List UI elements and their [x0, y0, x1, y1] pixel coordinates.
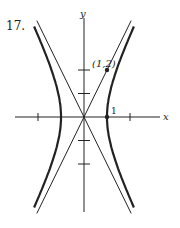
x-axis-label: x: [163, 111, 169, 122]
hyperbola-diagram: 17. x y (1,2) 1: [0, 0, 180, 228]
marked-point: [105, 115, 109, 119]
y-axis-label: y: [79, 8, 86, 19]
problem-number: 17.: [6, 19, 25, 33]
vertex-label: 1: [111, 106, 117, 116]
point-label: (1,2): [92, 58, 116, 69]
